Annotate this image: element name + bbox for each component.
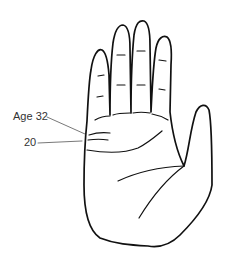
crease-index-1 [159,60,166,61]
annotation-age20: 20 [24,137,36,148]
hand-diagram: Age 32 20 [0,0,229,262]
hand-drawing [0,0,229,262]
head-line [87,131,162,152]
crease-index-2 [159,89,165,90]
leader-line-age32 [47,117,85,134]
hand-outline [84,21,212,247]
crease-little-2 [97,96,103,97]
annotation-age32: Age 32 [13,111,48,122]
crease-little-1 [98,75,104,76]
marriage-line-age20 [88,139,108,140]
life-line-lower [139,166,184,218]
marriage-line-age32 [89,133,110,135]
leader-line-age20 [38,141,82,143]
